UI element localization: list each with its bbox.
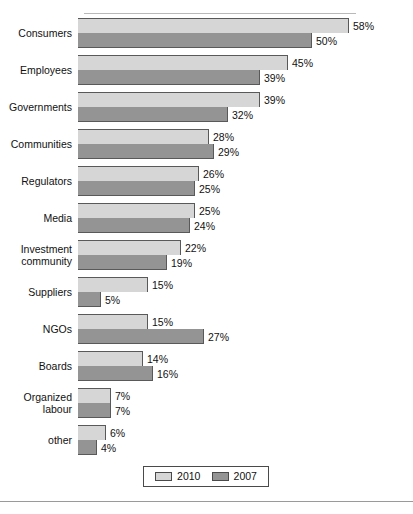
bar-2010[interactable]	[78, 425, 106, 440]
category-label-regulators: Regulators	[0, 166, 78, 196]
bar-2007[interactable]	[78, 70, 260, 85]
bar-pair-media: 25% 24%	[78, 203, 413, 233]
bar-value-2010: 25%	[195, 205, 220, 217]
bar-pair-consumers: 58% 50%	[78, 18, 413, 48]
legend-swatch-2010-icon	[155, 472, 172, 481]
bar-2010[interactable]	[78, 18, 349, 33]
bar-2007[interactable]	[78, 440, 97, 455]
bar-2007[interactable]	[78, 181, 195, 196]
bar-value-2010: 26%	[199, 168, 224, 180]
category-label-organized-labour: Organized labour	[0, 388, 78, 418]
bar-2010[interactable]	[78, 314, 148, 329]
bar-2010[interactable]	[78, 92, 260, 107]
bar-group-governments: Governments 39% 32%	[0, 92, 413, 122]
bar-2007[interactable]	[78, 292, 101, 307]
bar-row-2010: 45%	[78, 55, 413, 70]
bar-row-2007: 7%	[78, 403, 413, 418]
category-label-consumers: Consumers	[0, 18, 78, 48]
bar-value-2007: 50%	[312, 35, 337, 47]
bar-2007[interactable]	[78, 403, 111, 418]
category-label-governments: Governments	[0, 92, 78, 122]
bar-row-2007: 39%	[78, 70, 413, 85]
bar-pair-boards: 14% 16%	[78, 351, 413, 381]
bar-row-2007: 4%	[78, 440, 413, 455]
category-label-media: Media	[0, 203, 78, 233]
bar-2010[interactable]	[78, 203, 195, 218]
bar-value-2007: 16%	[153, 368, 178, 380]
group-spacer	[0, 270, 413, 277]
bar-2007[interactable]	[78, 218, 190, 233]
bar-row-2007: 27%	[78, 329, 413, 344]
bar-pair-other: 6% 4%	[78, 425, 413, 455]
bar-value-2007: 7%	[111, 405, 130, 417]
bar-row-2007: 19%	[78, 255, 413, 270]
bar-row-2010: 26%	[78, 166, 413, 181]
bar-group-suppliers: Suppliers 15% 5%	[0, 277, 413, 307]
group-spacer	[0, 381, 413, 388]
bar-2010[interactable]	[78, 351, 143, 366]
bar-value-2010: 39%	[260, 94, 285, 106]
bar-2007[interactable]	[78, 366, 153, 381]
category-label-employees: Employees	[0, 55, 78, 85]
bar-2010[interactable]	[78, 55, 288, 70]
bar-pair-suppliers: 15% 5%	[78, 277, 413, 307]
bar-value-2010: 28%	[209, 131, 234, 143]
bar-row-2010: 39%	[78, 92, 413, 107]
legend-label-2007: 2007	[234, 471, 257, 482]
bar-row-2010: 28%	[78, 129, 413, 144]
group-spacer	[0, 344, 413, 351]
bar-group-regulators: Regulators 26% 25%	[0, 166, 413, 196]
bar-group-employees: Employees 45% 39%	[0, 55, 413, 85]
group-spacer	[0, 418, 413, 425]
bar-2010[interactable]	[78, 166, 199, 181]
bar-value-2007: 24%	[190, 220, 215, 232]
bar-value-2007: 39%	[260, 72, 285, 84]
chart-legend: 2010 2007	[143, 466, 269, 487]
bar-2007[interactable]	[78, 144, 214, 159]
group-spacer	[0, 196, 413, 203]
bar-row-2010: 22%	[78, 240, 413, 255]
bar-2007[interactable]	[78, 107, 228, 122]
bar-row-2010: 7%	[78, 388, 413, 403]
bar-row-2010: 25%	[78, 203, 413, 218]
category-label-ngos: NGOs	[0, 314, 78, 344]
legend-swatch-2007-icon	[212, 472, 229, 481]
bar-pair-ngos: 15% 27%	[78, 314, 413, 344]
bar-pair-governments: 39% 32%	[78, 92, 413, 122]
bar-pair-employees: 45% 39%	[78, 55, 413, 85]
bar-group-consumers: Consumers 58% 50%	[0, 18, 413, 48]
bar-row-2007: 16%	[78, 366, 413, 381]
category-label-boards: Boards	[0, 351, 78, 381]
bar-group-boards: Boards 14% 16%	[0, 351, 413, 381]
bar-2007[interactable]	[78, 255, 167, 270]
bar-row-2010: 6%	[78, 425, 413, 440]
bar-group-investment-community: Investment community 22% 19%	[0, 240, 413, 270]
bar-value-2010: 14%	[143, 353, 168, 365]
bar-2010[interactable]	[78, 129, 209, 144]
legend-item-2010[interactable]: 2010	[155, 471, 200, 482]
bar-pair-regulators: 26% 25%	[78, 166, 413, 196]
bar-value-2007: 4%	[97, 442, 116, 454]
category-label-suppliers: Suppliers	[0, 277, 78, 307]
bar-group-communities: Communities 28% 29%	[0, 129, 413, 159]
group-spacer	[0, 307, 413, 314]
bar-pair-organized-labour: 7% 7%	[78, 388, 413, 418]
bar-2010[interactable]	[78, 388, 111, 403]
bar-row-2010: 15%	[78, 277, 413, 292]
bar-2007[interactable]	[78, 329, 204, 344]
bar-row-2007: 32%	[78, 107, 413, 122]
category-label-communities: Communities	[0, 129, 78, 159]
bar-2010[interactable]	[78, 240, 181, 255]
bar-value-2007: 5%	[101, 294, 120, 306]
bar-group-organized-labour: Organized labour 7% 7%	[0, 388, 413, 418]
bar-pair-communities: 28% 29%	[78, 129, 413, 159]
bar-value-2007: 29%	[214, 146, 239, 158]
bar-2007[interactable]	[78, 33, 312, 48]
bar-pair-investment-community: 22% 19%	[78, 240, 413, 270]
bar-group-media: Media 25% 24%	[0, 203, 413, 233]
top-divider-rule	[84, 13, 356, 14]
bar-2010[interactable]	[78, 277, 148, 292]
bar-value-2010: 6%	[106, 427, 125, 439]
legend-item-2007[interactable]: 2007	[212, 471, 257, 482]
bar-row-2007: 24%	[78, 218, 413, 233]
